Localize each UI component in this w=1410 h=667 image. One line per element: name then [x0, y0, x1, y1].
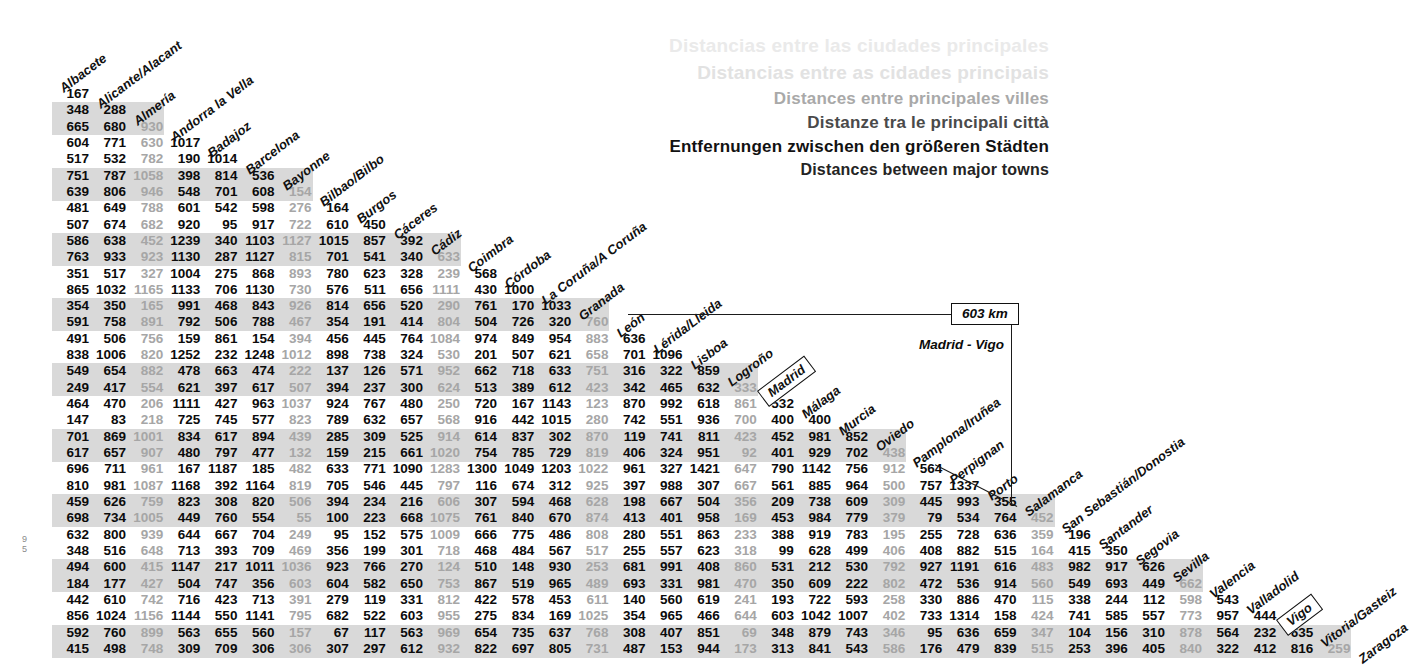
matrix-cell: 167 [500, 396, 534, 412]
matrix-cell: 738 [352, 347, 386, 363]
matrix-cell: 557 [649, 543, 683, 559]
matrix-cell: 468 [203, 298, 237, 314]
matrix-cell: 603 [760, 608, 794, 624]
matrix-cell: 742 [612, 412, 646, 428]
matrix-cell: 718 [426, 543, 460, 559]
matrix-row: 3543501659914688439268146565202907611701… [0, 298, 1077, 314]
matrix-cell: 729 [537, 445, 571, 461]
matrix-cell: 137 [315, 363, 349, 379]
matrix-cell: 115 [1020, 592, 1054, 608]
matrix-cell: 1165 [129, 282, 163, 298]
matrix-cell: 696 [55, 461, 89, 477]
matrix-cell: 423 [574, 380, 608, 396]
matrix-cell: 504 [686, 494, 720, 510]
matrix-cell: 199 [352, 543, 386, 559]
matrix-cell: 957 [1205, 608, 1239, 624]
matrix-cell: 851 [686, 625, 720, 641]
matrix-cell: 914 [983, 576, 1017, 592]
matrix-cell: 644 [723, 608, 757, 624]
matrix-cell: 164 [1020, 543, 1054, 559]
matrix-cell: 279 [315, 592, 349, 608]
matrix-cell: 628 [574, 494, 608, 510]
matrix-cell: 757 [908, 478, 942, 494]
matrix-cell: 838 [55, 347, 89, 363]
matrix-cell: 663 [203, 363, 237, 379]
matrix-cell: 981 [686, 576, 720, 592]
matrix-cell: 348 [55, 543, 89, 559]
matrix-cell: 95 [203, 217, 237, 233]
matrix-cell: 546 [352, 478, 386, 494]
matrix-cell: 618 [686, 396, 720, 412]
matrix-cell: 756 [834, 461, 868, 477]
matrix-cell: 899 [129, 625, 163, 641]
matrix-cell: 522 [352, 608, 386, 624]
matrix-cell: 693 [612, 576, 646, 592]
matrix-cell: 702 [834, 445, 868, 461]
matrix-cell: 1144 [166, 608, 200, 624]
matrix-cell: 771 [92, 135, 126, 151]
matrix-cell: 636 [983, 527, 1017, 543]
matrix-cell: 610 [315, 217, 349, 233]
matrix-cell: 614 [463, 429, 497, 445]
matrix-cell: 391 [278, 592, 312, 608]
matrix-cell: 307 [463, 494, 497, 510]
matrix-cell: 766 [352, 559, 386, 575]
matrix-cell: 923 [129, 249, 163, 265]
matrix-cell: 69 [723, 625, 757, 641]
matrix-cell: 513 [463, 380, 497, 396]
matrix-cell: 185 [241, 461, 275, 477]
matrix-cell: 810 [55, 478, 89, 494]
matrix-cell: 300 [389, 380, 423, 396]
matrix-cell: 347 [1020, 625, 1054, 641]
matrix-cell: 396 [1094, 641, 1128, 657]
matrix-row: 639806946548701608154 [0, 184, 1077, 200]
matrix-row: 6047716301017 [0, 135, 1077, 151]
matrix-cell: 307 [315, 641, 349, 657]
matrix-cell: 647 [723, 461, 757, 477]
matrix-cell: 308 [203, 494, 237, 510]
matrix-cell: 470 [723, 576, 757, 592]
matrix-cell: 609 [834, 494, 868, 510]
matrix-cell: 1015 [537, 412, 571, 428]
matrix-cell: 701 [315, 249, 349, 265]
matrix-cell: 961 [612, 461, 646, 477]
matrix-cell: 951 [686, 445, 720, 461]
matrix-cell: 748 [129, 641, 163, 657]
matrix-cell: 626 [92, 494, 126, 510]
matrix-cell: 923 [315, 559, 349, 575]
matrix-cell: 616 [983, 559, 1017, 575]
matrix-cell: 1001 [129, 429, 163, 445]
matrix-row: 665680930 [0, 119, 1077, 135]
matrix-cell: 666 [463, 527, 497, 543]
matrix-cell: 693 [1094, 576, 1128, 592]
matrix-cell: 834 [166, 429, 200, 445]
matrix-cell: 720 [463, 396, 497, 412]
matrix-cell: 117 [352, 625, 386, 641]
matrix-cell: 1133 [166, 282, 200, 298]
matrix-cell: 606 [426, 494, 460, 510]
matrix-cell: 840 [1168, 641, 1202, 657]
matrix-cell: 153 [649, 641, 683, 657]
matrix-cell: 147 [55, 412, 89, 428]
matrix-row: 6987341005449760554551002236681075761840… [0, 510, 1077, 526]
matrix-cell: 348 [760, 625, 794, 641]
matrix-cell: 158 [983, 608, 1017, 624]
matrix-cell: 628 [797, 543, 831, 559]
matrix-cell: 394 [315, 380, 349, 396]
matrix-cell: 215 [352, 445, 386, 461]
matrix-cell: 731 [574, 641, 608, 657]
matrix-cell: 822 [463, 641, 497, 657]
matrix-cell: 515 [983, 543, 1017, 559]
matrix-cell: 484 [500, 543, 534, 559]
matrix-cell: 453 [760, 510, 794, 526]
matrix-cell: 658 [574, 347, 608, 363]
matrix-cell: 249 [278, 527, 312, 543]
matrix-cell: 1191 [945, 559, 979, 575]
matrix-cell: 734 [92, 510, 126, 526]
matrix-cell: 320 [537, 314, 571, 330]
matrix-cell: 359 [1020, 527, 1054, 543]
matrix-cell: 879 [797, 625, 831, 641]
matrix-cell: 1005 [129, 510, 163, 526]
matrix-cell: 517 [574, 543, 608, 559]
matrix-cell: 1011 [241, 559, 275, 575]
